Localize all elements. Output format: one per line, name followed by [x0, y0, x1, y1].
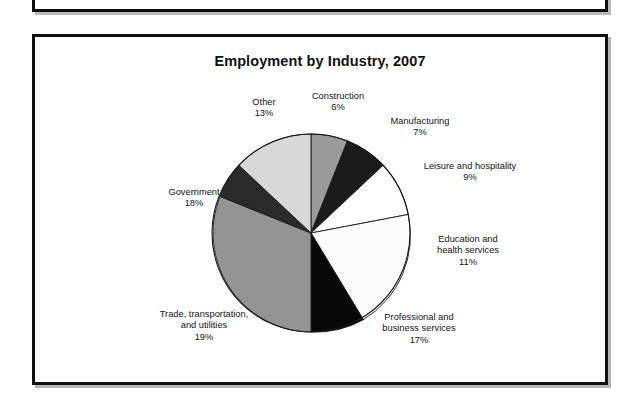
- pie-label-manufacturing: Manufacturing 7%: [372, 116, 468, 139]
- pie-label-education-and-health-services: Education and health services 11%: [416, 234, 520, 268]
- pie-label-other-value: 13%: [234, 108, 294, 119]
- pie-label-leisure-value: 9%: [392, 172, 548, 183]
- pie-label-leisure-name: Leisure and hospitality: [392, 161, 548, 172]
- pie-label-manufacturing-name: Manufacturing: [372, 116, 468, 127]
- pie-label-government-value: 18%: [151, 198, 237, 209]
- pie-label-education-value: 11%: [416, 257, 520, 268]
- pie-label-trade-value: 19%: [131, 332, 277, 343]
- pie-label-professional-value: 17%: [355, 335, 483, 346]
- pie-label-construction-value: 6%: [292, 102, 384, 113]
- pie-label-trade-line1: Trade, transportation,: [131, 309, 277, 320]
- pie-label-education-line1: Education and: [416, 234, 520, 245]
- chart-figure-frame: Employment by Industry, 2007: [32, 34, 608, 385]
- pie-label-other: Other 13%: [234, 97, 294, 120]
- pie-label-leisure-and-hospitality: Leisure and hospitality 9%: [392, 161, 548, 184]
- pie-label-professional-line1: Professional and: [355, 312, 483, 323]
- page-canvas: Employment by Industry, 2007: [0, 0, 625, 407]
- pie-label-education-line2: health services: [416, 245, 520, 256]
- pie-chart-svg: [211, 133, 411, 333]
- pie-label-professional-line2: business services: [355, 323, 483, 334]
- pie-label-construction-name: Construction: [292, 91, 384, 102]
- pie-label-manufacturing-value: 7%: [372, 127, 468, 138]
- pie-label-trade-line2: and utilities: [131, 320, 277, 331]
- pie-label-professional-and-business-services: Professional and business services 17%: [355, 312, 483, 346]
- pie-label-construction: Construction 6%: [292, 91, 384, 114]
- pie-label-trade-transportation-and-utilities: Trade, transportation, and utilities 19%: [131, 309, 277, 343]
- pie-label-other-name: Other: [234, 97, 294, 108]
- page-title: Employment by Industry, 2007: [35, 53, 605, 69]
- pie-label-government-name: Government: [151, 187, 237, 198]
- pie-label-government: Government 18%: [151, 187, 237, 210]
- pie-chart: [211, 133, 411, 333]
- adjacent-figure-frame-partial: [32, 0, 608, 12]
